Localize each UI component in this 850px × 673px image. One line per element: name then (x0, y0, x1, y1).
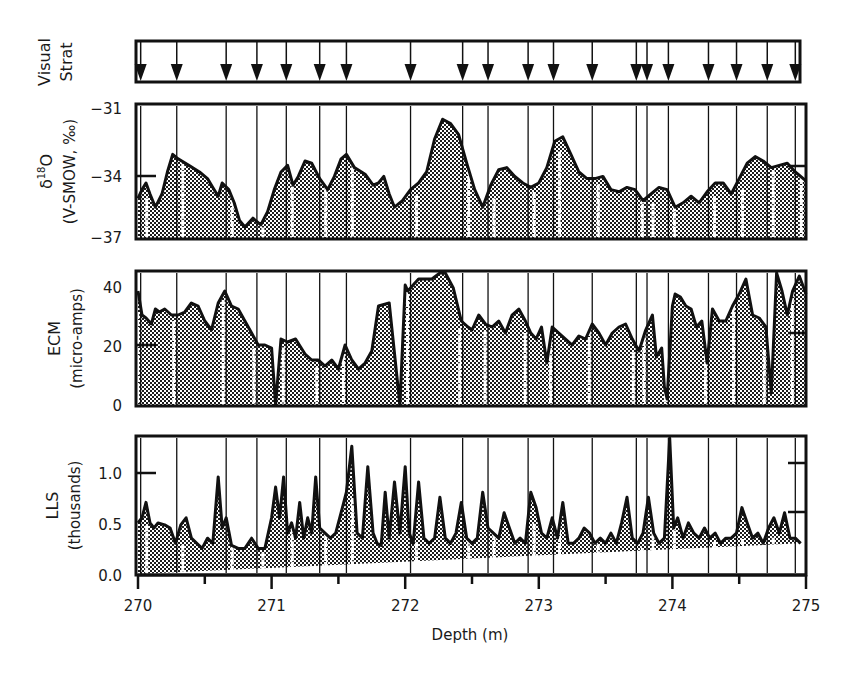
ice-core-figure: Visual Strat −31−34−37δ18O(V-SMOW, ‰) 02… (0, 0, 850, 673)
d18o-panel: −31−34−37δ18O(V-SMOW, ‰) (36, 100, 806, 247)
lls-y-tick-label: 1.0 (98, 465, 122, 483)
arrow-down-icon (641, 64, 653, 81)
x-tick-label: 271 (257, 597, 286, 615)
arrow-down-icon (251, 64, 263, 81)
ecm-panel: 02040ECM(micro-amps) (45, 271, 806, 415)
ecm-y-title: ECM (45, 321, 64, 356)
x-tick-label: 270 (124, 597, 153, 615)
ecm-y-subtitle: (micro-amps) (68, 288, 86, 389)
layer-arrows (135, 42, 802, 81)
x-tick-label: 275 (792, 597, 821, 615)
visual-strat-label-line1: Visual (35, 38, 54, 86)
arrow-down-icon (731, 64, 743, 81)
lls-panel: 0.00.51.0LLS(thousands) (43, 436, 806, 585)
arrow-down-icon (340, 64, 352, 81)
arrow-down-icon (586, 64, 598, 81)
x-tick-label: 274 (658, 597, 687, 615)
x-axis-title: Depth (m) (432, 626, 509, 644)
arrow-down-icon (662, 64, 674, 81)
lls-y-tick-label: 0.0 (98, 567, 122, 585)
x-tick-label: 273 (524, 597, 553, 615)
lls-y-title: LLS (43, 492, 62, 520)
d18o-y-tick-label: −31 (90, 100, 122, 118)
arrow-down-icon (314, 64, 326, 81)
visual-strat-frame (136, 41, 800, 82)
ecm-y-tick-label: 20 (103, 338, 122, 356)
arrow-down-icon (171, 64, 183, 81)
arrow-down-icon (761, 64, 773, 81)
arrow-down-icon (405, 64, 417, 81)
x-tick-label: 272 (391, 597, 420, 615)
arrow-down-icon (547, 64, 559, 81)
d18o-y-tick-label: −37 (90, 229, 122, 247)
lls-y-tick-label: 0.5 (98, 516, 122, 534)
arrow-down-icon (522, 64, 534, 81)
depth-axis: 270271272273274275 (124, 575, 821, 615)
arrow-down-icon (220, 64, 232, 81)
visual-strat-label-line2: Strat (57, 42, 76, 81)
lls-y-subtitle: (thousands) (66, 461, 84, 551)
d18o-y-subtitle: (V-SMOW, ‰) (61, 119, 79, 224)
ecm-y-tick-label: 40 (103, 279, 122, 297)
arrow-down-icon (702, 64, 714, 81)
d18o-y-tick-label: −34 (90, 168, 122, 186)
arrow-down-icon (280, 64, 292, 81)
arrow-down-icon (482, 64, 494, 81)
visual-strat-panel: Visual Strat (35, 38, 801, 86)
arrow-down-icon (457, 64, 469, 81)
arrow-down-icon (630, 64, 642, 81)
ecm-y-tick-label: 0 (112, 397, 122, 415)
d18o-y-title: δ18O (36, 154, 56, 189)
